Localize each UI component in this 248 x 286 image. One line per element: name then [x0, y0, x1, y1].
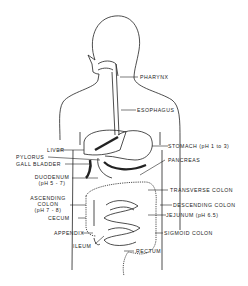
label-ascending-colon: ASCENDING COLON (pH 7 - 8)	[26, 195, 70, 213]
label-duodenum-ph: (pH 5 - 7)	[30, 180, 74, 186]
label-ileum: ILEUM	[73, 243, 91, 249]
label-ascending-colon-ph: (pH 7 - 8)	[26, 207, 70, 213]
digestive-system-diagram: PHARYNX ESOPHAGUS LIVER STOMACH (pH 1 to…	[0, 0, 248, 286]
label-sigmoid-colon: SIGMOID COLON	[164, 230, 213, 236]
label-transverse-colon: TRANSVERSE COLON	[170, 187, 233, 193]
label-pharynx: PHARYNX	[140, 74, 169, 80]
label-descending-colon: DESCENDING COLON	[173, 202, 235, 208]
label-pancreas: PANCREAS	[168, 157, 200, 163]
label-cecum: CECUM	[48, 215, 70, 221]
label-esophagus: ESOPHAGUS	[137, 107, 174, 113]
label-gall-bladder: GALL BLADDER	[16, 161, 61, 167]
label-appendix: APPENDIX	[54, 230, 84, 236]
label-duodenum: DUODENUM (pH 5 - 7)	[30, 174, 74, 186]
label-stomach: STOMACH (pH 1 to 3)	[168, 143, 229, 149]
label-rectum: RECTUM	[136, 248, 161, 254]
label-pylorus: PYLORUS	[16, 154, 44, 160]
label-jejunum: JEJUNUM (pH 6.5)	[166, 212, 218, 218]
label-liver: LIVER	[47, 147, 65, 153]
